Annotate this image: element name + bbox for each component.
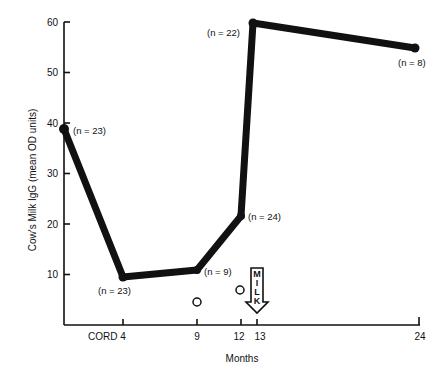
svg-text:30: 30: [47, 168, 59, 179]
data-points: [59, 19, 420, 282]
svg-text:20: 20: [47, 219, 59, 230]
svg-text:60: 60: [47, 17, 59, 28]
svg-text:24: 24: [414, 331, 426, 342]
svg-text:CORD 4: CORD 4: [88, 331, 126, 342]
x-axis-title: Months: [226, 353, 259, 364]
svg-text:(n = 9): (n = 9): [204, 266, 232, 277]
svg-text:9: 9: [194, 331, 200, 342]
svg-text:(n = 22): (n = 22): [207, 27, 240, 38]
chart-canvas: 60 50 40 30 20 10 CORD 4 9 12 13 24 Mont…: [0, 0, 445, 376]
open-circle-points: [193, 286, 244, 306]
svg-text:10: 10: [47, 269, 59, 280]
y-tick-labels: 60 50 40 30 20 10: [47, 17, 59, 281]
x-tick-labels: CORD 4 9 12 13 24: [88, 331, 426, 342]
mean-igg-line: [64, 23, 415, 277]
svg-text:(n = 23): (n = 23): [73, 125, 106, 136]
svg-text:(n = 8): (n = 8): [398, 57, 426, 68]
svg-text:40: 40: [47, 118, 59, 129]
svg-text:(n = 23): (n = 23): [98, 285, 131, 296]
svg-text:50: 50: [47, 67, 59, 78]
milk-arrow-icon: M I L K: [246, 268, 268, 313]
x-ticks: [123, 317, 419, 325]
svg-text:(n = 24): (n = 24): [248, 211, 281, 222]
svg-text:K: K: [254, 296, 261, 306]
y-axis-title: Cow's Milk IgG (mean OD units): [27, 109, 38, 252]
svg-text:13: 13: [254, 331, 266, 342]
svg-text:12: 12: [233, 331, 245, 342]
